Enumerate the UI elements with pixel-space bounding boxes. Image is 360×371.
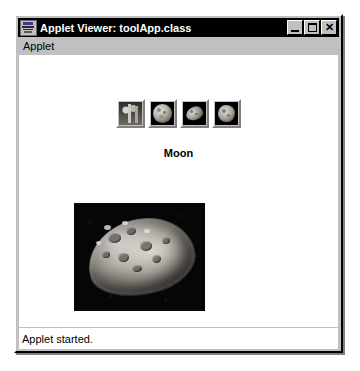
- thumbnail-button-2[interactable]: [148, 99, 177, 128]
- window-title: Applet Viewer: toolApp.class: [40, 22, 287, 34]
- cratered-moon-thumbnail-icon: [215, 102, 238, 125]
- selected-object-label: Moon: [19, 147, 338, 159]
- status-text: Applet started.: [19, 333, 93, 345]
- menu-item-applet[interactable]: Applet: [18, 39, 60, 53]
- window-controls: ✕: [287, 20, 337, 35]
- rock-formation-thumbnail-icon: [119, 102, 142, 125]
- main-moon-image[interactable]: [74, 203, 205, 311]
- minimize-icon: [291, 30, 299, 32]
- surface-highlight: [104, 225, 111, 230]
- thumbnail-button-4[interactable]: [212, 99, 241, 128]
- thumbnail-button-1[interactable]: [116, 99, 145, 128]
- applet-viewer-window: Applet Viewer: toolApp.class ✕ Applet: [14, 14, 343, 353]
- maximize-button[interactable]: [304, 20, 320, 35]
- minimize-button[interactable]: [287, 20, 303, 35]
- status-bar: Applet started.: [19, 327, 338, 349]
- irregular-moon-thumbnail-icon: [183, 102, 206, 125]
- menu-bar: Applet: [18, 37, 339, 55]
- thumbnail-button-3[interactable]: [180, 99, 209, 128]
- maximize-icon: [308, 23, 317, 32]
- full-globe-thumbnail-icon: [151, 102, 174, 125]
- thumbnail-toolbar: [19, 99, 338, 128]
- applet-viewer-icon: [20, 20, 37, 36]
- close-icon: ✕: [322, 21, 336, 34]
- close-button[interactable]: ✕: [321, 20, 337, 35]
- title-bar[interactable]: Applet Viewer: toolApp.class ✕: [18, 18, 339, 37]
- applet-canvas: Moon: [19, 55, 338, 327]
